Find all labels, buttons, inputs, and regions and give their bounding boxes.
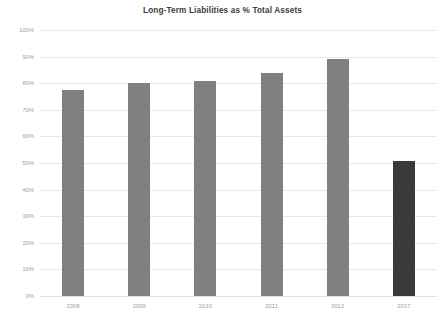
y-axis-tick-label: 70% <box>0 107 34 113</box>
y-axis-tick-label: 10% <box>0 266 34 272</box>
y-axis-tick-label: 40% <box>0 187 34 193</box>
gridline <box>40 190 437 191</box>
chart-title: Long-Term Liabilities as % Total Assets <box>0 6 445 15</box>
gridline <box>40 30 437 31</box>
gridline <box>40 243 437 244</box>
gridline <box>40 136 437 137</box>
y-axis-tick-label: 90% <box>0 54 34 60</box>
gridline <box>40 216 437 217</box>
x-axis-tick-label-2011: 2011 <box>242 303 302 309</box>
y-axis-tick-label: 80% <box>0 80 34 86</box>
bar-2010[interactable] <box>194 81 216 296</box>
gridline <box>40 110 437 111</box>
y-axis-tick-label: 30% <box>0 213 34 219</box>
bar-2017[interactable] <box>393 161 415 296</box>
x-axis-tick-label-2008: 2008 <box>43 303 103 309</box>
bar-2009[interactable] <box>128 83 150 296</box>
bar-2011[interactable] <box>261 73 283 296</box>
gridline <box>40 163 437 164</box>
x-axis-tick-label-2017: 2017 <box>374 303 434 309</box>
gridline <box>40 83 437 84</box>
x-axis-line <box>40 296 437 297</box>
bar-2008[interactable] <box>62 90 84 296</box>
y-axis-tick-label: 50% <box>0 160 34 166</box>
x-axis-tick-label-2010: 2010 <box>175 303 235 309</box>
chart-container: Long-Term Liabilities as % Total Assets … <box>0 0 445 324</box>
y-axis-tick-label: 60% <box>0 133 34 139</box>
gridline <box>40 57 437 58</box>
plot-area <box>40 30 437 296</box>
y-axis-tick-label: 0% <box>0 293 34 299</box>
x-axis-tick-label-2012: 2012 <box>308 303 368 309</box>
y-axis-tick-label: 100% <box>0 27 34 33</box>
bar-2012[interactable] <box>327 59 349 296</box>
x-axis-tick-label-2009: 2009 <box>109 303 169 309</box>
y-axis-tick-label: 20% <box>0 240 34 246</box>
gridline <box>40 269 437 270</box>
